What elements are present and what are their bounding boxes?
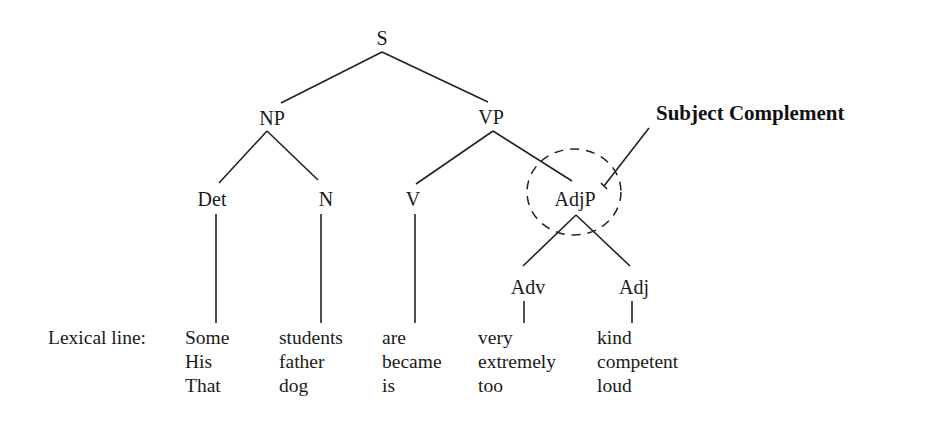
edge-s-vp — [382, 52, 488, 102]
edge-s-np — [281, 52, 382, 103]
syntax-tree-diagram: S NP VP Det N V AdjP Adv Adj Subject Com… — [0, 0, 942, 424]
node-np: NP — [259, 108, 285, 128]
node-s: S — [376, 28, 387, 48]
node-adjp: AdjP — [554, 189, 595, 209]
lexical-word: are — [382, 328, 406, 348]
node-v: V — [406, 189, 420, 209]
lexical-word: His — [185, 352, 212, 372]
callout-pointer — [604, 128, 649, 186]
node-vp: VP — [478, 107, 504, 127]
lexical-word: kind — [597, 328, 632, 348]
node-adj: Adj — [619, 277, 649, 297]
lexical-word: father — [279, 352, 324, 372]
tree-edges — [0, 0, 942, 424]
subject-complement-label: Subject Complement — [656, 103, 844, 124]
lexical-word: loud — [597, 376, 632, 396]
lexical-word: too — [478, 376, 503, 396]
lexical-word: Some — [185, 328, 229, 348]
edge-vp-adjp — [493, 131, 572, 181]
lexical-word: extremely — [478, 352, 556, 372]
lexical-word: That — [185, 376, 221, 396]
lexical-line-label: Lexical line: — [48, 328, 146, 348]
edge-vp-v — [416, 131, 493, 184]
lexical-word: students — [279, 328, 343, 348]
node-n: N — [319, 189, 333, 209]
lexical-word: competent — [597, 352, 678, 372]
edge-adjp-adj — [576, 215, 630, 266]
node-det: Det — [198, 189, 227, 209]
edge-adjp-adv — [523, 215, 576, 266]
lexical-word: became — [382, 352, 442, 372]
lexical-word: is — [382, 376, 395, 396]
edge-np-n — [267, 131, 318, 180]
lexical-word: very — [478, 328, 513, 348]
lexical-word: dog — [279, 376, 308, 396]
edge-np-det — [219, 131, 267, 183]
node-adv: Adv — [511, 277, 545, 297]
